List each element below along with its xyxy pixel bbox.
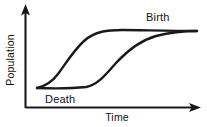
population-chart-figure: Birth Death Time Population xyxy=(0,0,207,127)
y-axis-label: Population xyxy=(4,34,16,86)
birth-curve xyxy=(37,30,197,88)
chart-canvas: Birth Death Time Population xyxy=(0,0,207,127)
death-curve-label: Death xyxy=(45,93,75,105)
x-axis-label: Time xyxy=(105,111,129,123)
data-curves-group xyxy=(37,30,197,88)
birth-curve-label: Birth xyxy=(146,11,170,23)
death-curve xyxy=(37,31,197,88)
